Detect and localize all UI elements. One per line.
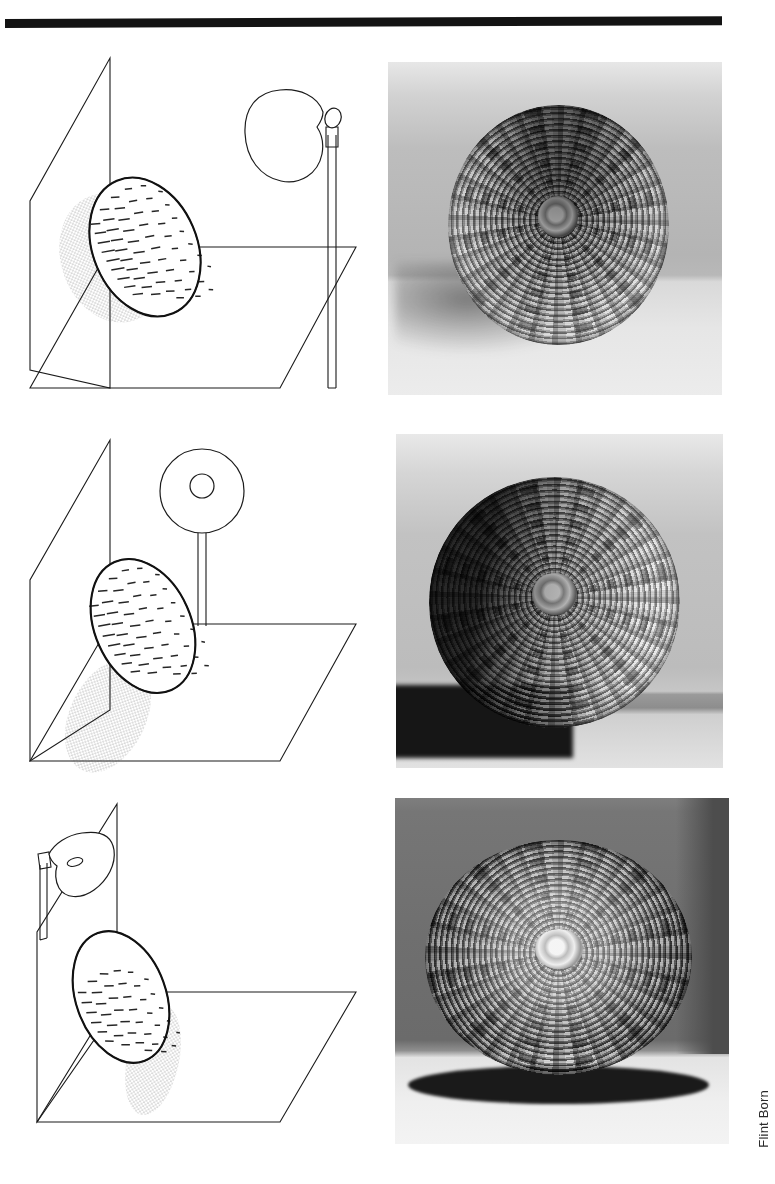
photo-credit: Flint Born xyxy=(756,1090,771,1148)
diagram-side-light xyxy=(18,428,370,776)
basket-object xyxy=(448,105,668,345)
lamp-shade-icon xyxy=(245,90,323,182)
lamp-ring-inner-icon xyxy=(190,474,214,498)
top-divider-rule xyxy=(5,16,722,28)
photo-basket-front-light xyxy=(395,798,729,1144)
basket-rim-shading xyxy=(425,840,692,1075)
row-side-light xyxy=(0,428,775,776)
basket-object xyxy=(429,477,681,728)
diagram-front-light xyxy=(18,792,370,1162)
floor-lamp xyxy=(245,90,344,388)
photo-cell-top-light xyxy=(388,55,722,415)
row-top-light xyxy=(0,55,775,415)
basket-rim-shading xyxy=(448,105,668,345)
photo-basket-top-light xyxy=(388,62,722,395)
lamp-shade-icon xyxy=(49,832,114,896)
diagram-front-light-svg xyxy=(18,792,370,1162)
row-front-light xyxy=(0,792,775,1162)
photo-cell-front-light xyxy=(395,792,729,1162)
basket-rim-shading xyxy=(429,477,681,728)
lamp-pole xyxy=(328,135,336,388)
lamp-post xyxy=(198,533,206,626)
photo-cell-side-light xyxy=(396,428,723,776)
diagram-side-light-svg xyxy=(18,428,370,776)
lamp-socket-icon xyxy=(322,106,343,130)
lamp-stand xyxy=(40,863,47,940)
diagram-top-light xyxy=(18,55,370,415)
basket-object xyxy=(425,840,692,1075)
page-root: { "page": { "background_color": "#ffffff… xyxy=(0,0,775,1184)
photo-basket-side-light xyxy=(396,434,723,768)
diagram-top-light-svg xyxy=(18,55,370,415)
tilted-lamp xyxy=(38,832,114,940)
